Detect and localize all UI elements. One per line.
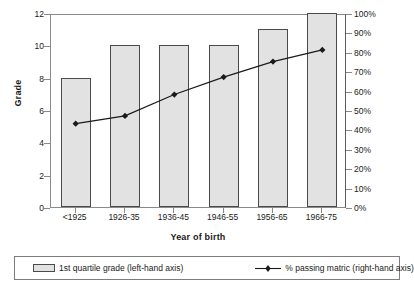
- y-tick-label-left: 0: [4, 203, 44, 213]
- x-axis-label: Year of birth: [50, 232, 346, 242]
- y-tick-label-right: 60%: [354, 87, 398, 97]
- legend-item-line: % passing matric (right-hand axis): [255, 263, 414, 273]
- y-tick-label-right: 0%: [354, 203, 398, 213]
- y-tick-label-right: 50%: [354, 106, 398, 116]
- legend-bar-swatch-icon: [33, 264, 55, 272]
- y-tick-label-right: 100%: [354, 9, 398, 19]
- line-marker: [221, 74, 227, 80]
- y-tick-mark-left: [44, 208, 50, 209]
- line-series: [51, 15, 347, 209]
- y-tick-label-right: 80%: [354, 48, 398, 58]
- y-tick-label-right: 20%: [354, 164, 398, 174]
- y-tick-label-left: 6: [4, 106, 44, 116]
- plot-area: [50, 14, 346, 208]
- y-tick-label-left: 8: [4, 74, 44, 84]
- line-path: [76, 50, 323, 124]
- line-marker: [171, 91, 177, 97]
- y-tick-label-right: 30%: [354, 145, 398, 155]
- plot-inner: [51, 15, 345, 207]
- line-marker: [122, 113, 128, 119]
- legend-item-bar: 1st quartile grade (left-hand axis): [33, 263, 183, 273]
- y-tick-label-left: 12: [4, 9, 44, 19]
- y-tick-label-left: 10: [4, 41, 44, 51]
- x-tick-label: 1926-35: [99, 212, 148, 223]
- chart-legend: 1st quartile grade (left-hand axis) % pa…: [14, 256, 400, 280]
- x-tick-label: <1925: [50, 212, 99, 223]
- x-tick-label: 1946-55: [198, 212, 247, 223]
- x-tick-label: 1956-65: [247, 212, 296, 223]
- line-marker: [73, 121, 79, 127]
- line-marker: [319, 47, 325, 53]
- legend-item-bar-label: 1st quartile grade (left-hand axis): [59, 263, 183, 273]
- y-tick-label-right: 90%: [354, 28, 398, 38]
- y-tick-label-left: 4: [4, 138, 44, 148]
- legend-item-line-label: % passing matric (right-hand axis): [285, 263, 414, 273]
- chart-figure: Grade 024681012 0%10%20%30%40%50%60%70%8…: [0, 0, 414, 288]
- line-marker: [270, 58, 276, 64]
- y-tick-label-left: 2: [4, 171, 44, 181]
- x-tick-label: 1966-75: [297, 212, 346, 223]
- y-tick-label-right: 70%: [354, 67, 398, 77]
- y-tick-label-right: 10%: [354, 184, 398, 194]
- y-tick-label-right: 40%: [354, 125, 398, 135]
- x-tick-label: 1936-45: [149, 212, 198, 223]
- legend-line-diamond-icon: [255, 264, 281, 273]
